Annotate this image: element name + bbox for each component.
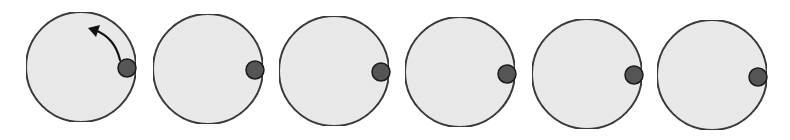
circle-frame-1 <box>26 12 136 122</box>
circle-frame-4 <box>405 17 516 127</box>
marker-dot <box>498 65 516 83</box>
circle-frame-2 <box>153 14 264 124</box>
circle-frame-5 <box>532 19 643 129</box>
marker-dot <box>372 63 390 81</box>
circle-frame-3 <box>279 16 390 126</box>
rotation-sequence-diagram <box>0 0 790 140</box>
marker-dot <box>246 61 264 79</box>
marker-dot <box>625 66 643 84</box>
diagram-canvas <box>0 0 790 140</box>
circle-frame-6 <box>657 20 767 130</box>
marker-dot <box>749 68 767 86</box>
marker-dot <box>118 59 136 77</box>
circles-group <box>26 12 767 130</box>
